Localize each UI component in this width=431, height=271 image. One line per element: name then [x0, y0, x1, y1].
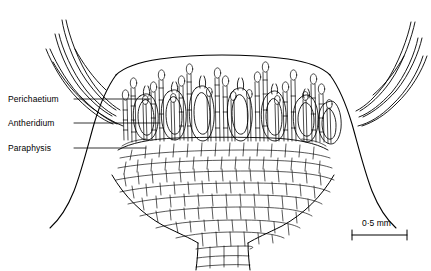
scale-bar-label: 0·5 mm — [362, 218, 391, 228]
moss-perichaetium-diagram — [0, 0, 431, 271]
left-perichaetial-leaves — [46, 20, 123, 126]
parenchyma-cells — [116, 139, 334, 268]
shoot-outline — [50, 55, 396, 228]
figure-canvas: Perichaetium Antheridium Paraphysis 0·5 … — [0, 0, 431, 271]
right-perichaetial-leaves — [356, 22, 427, 126]
label-antheridium: Antheridium — [8, 118, 54, 128]
antheridia-group — [133, 76, 341, 144]
label-perichaetium: Perichaetium — [8, 94, 59, 104]
scale-bar — [352, 230, 407, 240]
label-paraphysis: Paraphysis — [8, 143, 51, 153]
